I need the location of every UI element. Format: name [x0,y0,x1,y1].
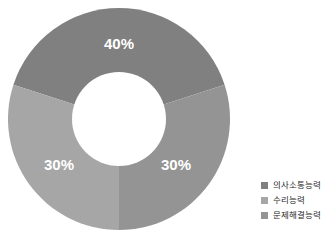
donut-chart: 40% 30% 30% 의사소통능력 수리능력 문제해결능력 [0,0,328,239]
legend-item-label: 문제해결능력 [273,211,321,220]
legend-swatch-icon [261,212,268,219]
slice-value-label-numeracy: 30% [44,156,74,173]
donut-plot-area: 40% 30% 30% [0,0,239,239]
legend-item-label: 수리능력 [273,196,305,205]
legend-swatch-icon [261,197,268,204]
donut-svg: 40% 30% 30% [0,0,239,239]
slice-value-label-communication: 40% [104,35,134,52]
legend-item-communication[interactable]: 의사소통능력 [261,178,328,193]
slice-value-label-problem-solving: 30% [161,156,191,173]
donut-center-hole [72,72,166,166]
chart-legend: 의사소통능력 수리능력 문제해결능력 [261,178,328,223]
legend-item-numeracy[interactable]: 수리능력 [261,193,328,208]
legend-item-problem-solving[interactable]: 문제해결능력 [261,208,328,223]
legend-swatch-icon [261,182,268,189]
legend-item-label: 의사소통능력 [273,181,321,190]
